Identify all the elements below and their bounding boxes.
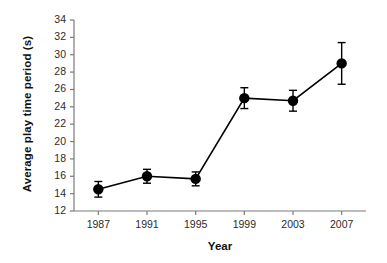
data-point-marker	[142, 171, 152, 181]
data-point-marker	[239, 93, 249, 103]
plot-area	[0, 0, 387, 263]
chart-figure: Average play time period (s) Year 343230…	[0, 0, 387, 263]
data-point-marker	[336, 58, 346, 68]
data-point-marker	[190, 174, 200, 184]
data-series	[93, 43, 347, 198]
data-point-marker	[288, 96, 298, 106]
data-point-marker	[93, 184, 103, 194]
